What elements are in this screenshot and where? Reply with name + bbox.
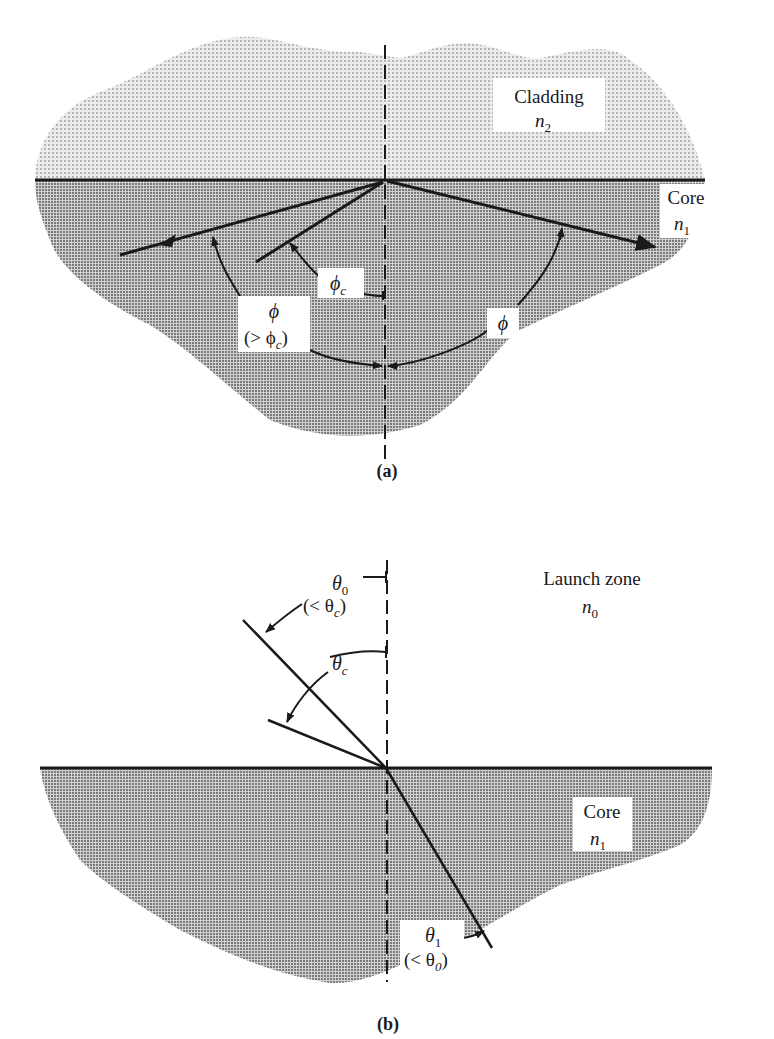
incident-ray-b	[243, 620, 386, 768]
thetac-arrow-arc	[287, 672, 328, 722]
critical-ray-b	[268, 720, 386, 768]
phi-right-label: ϕ	[498, 312, 508, 335]
core-label-b: Core	[584, 801, 621, 822]
optical-fiber-diagram: Cladding n2 Core n1 ϕc ϕ (> ϕc) ϕ (a)	[0, 0, 774, 1039]
launch-zone-label: Launch zone	[543, 568, 641, 589]
core-label-a: Core	[668, 187, 705, 208]
launch-zone-index: n0	[582, 596, 598, 621]
figure-b: θ0 (< θc) θc Launch zone n0 Core n1 θ1 (…	[40, 560, 712, 1035]
theta0-angle-arc	[266, 604, 302, 632]
thetac-label: θc	[332, 652, 348, 678]
figure-a: Cladding n2 Core n1 ϕc ϕ (> ϕc) ϕ (a)	[35, 37, 712, 482]
figure-b-caption: (b)	[377, 1014, 399, 1035]
figure-a-caption: (a)	[377, 461, 398, 482]
theta0-condition: (< θc)	[303, 595, 346, 620]
cladding-label: Cladding	[514, 86, 584, 107]
core-region	[35, 180, 705, 436]
phi-left-label: ϕ	[269, 300, 279, 323]
